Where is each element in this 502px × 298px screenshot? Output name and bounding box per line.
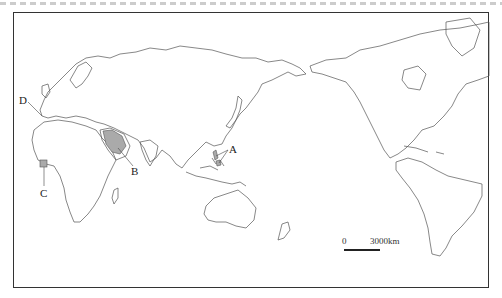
australia-outline [204, 190, 256, 228]
india-outline [140, 140, 158, 166]
leader-line-d [28, 102, 42, 116]
scandinavia-outline [70, 62, 92, 88]
region-a-philippines [213, 150, 221, 166]
south-america-outline [396, 158, 482, 256]
new-zealand-outline [278, 222, 290, 240]
leader-line-b [118, 148, 133, 166]
africa-outline [32, 120, 116, 222]
scale-bar [344, 249, 380, 251]
label-d: D [19, 95, 27, 106]
north-america-outline [310, 22, 489, 158]
world-map [0, 0, 502, 298]
label-b: B [131, 166, 138, 177]
madagascar-outline [112, 188, 118, 204]
label-a: A [229, 144, 237, 155]
japan-outline [226, 96, 242, 128]
hudson-bay-outline [402, 66, 426, 90]
region-c-ghana [40, 160, 47, 167]
label-c: C [40, 188, 47, 199]
scale-zero-label: 0 [342, 236, 347, 246]
scale-distance-label: 3000km [370, 236, 400, 246]
caribbean-outline [404, 146, 444, 154]
greenland-outline [446, 18, 480, 56]
eurasia-outline [40, 46, 306, 168]
